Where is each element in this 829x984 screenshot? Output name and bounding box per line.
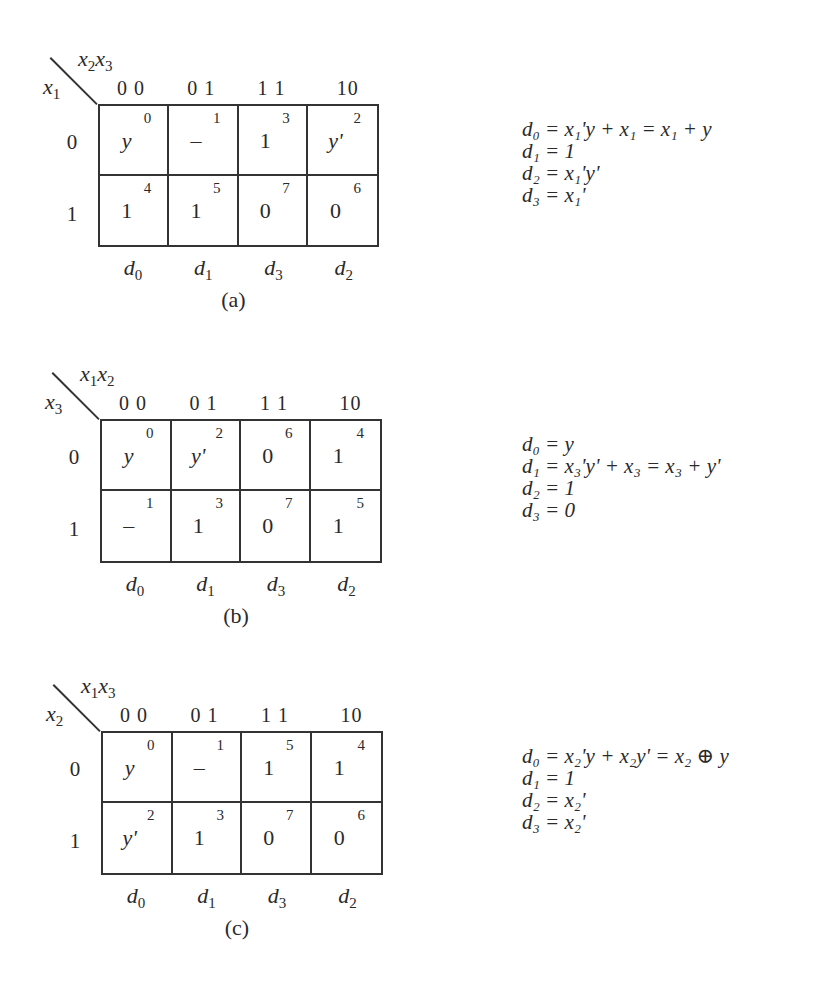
equation-line: d₂ = 1 (522, 477, 720, 499)
kmap-cell: 31 (239, 106, 308, 176)
cell-value: y' (103, 825, 157, 851)
d-subscript: 2 (349, 895, 357, 911)
col-var-2: x (98, 673, 108, 698)
row-header: 1 (65, 829, 85, 854)
d-symbol: d (268, 883, 279, 908)
kmap-cell: 31 (173, 803, 243, 873)
d-subscript: 3 (275, 267, 283, 283)
kmap-cell: 0y (100, 106, 169, 176)
column-variables-label: x1x2 (80, 361, 115, 390)
data-input-label: d2 (313, 883, 383, 912)
row-var-sub: 1 (53, 86, 61, 102)
data-input-label: d1 (172, 883, 242, 912)
panel-caption: (a) (204, 287, 264, 313)
d-subscript: 3 (279, 895, 287, 911)
cell-value: 0 (241, 443, 295, 469)
equation-line: d₁ = 1 (522, 767, 729, 789)
cell-value: 1 (100, 198, 153, 224)
minterm-index: 1 (146, 495, 154, 512)
col-var-1: x (80, 361, 90, 386)
equation-line: d₀ = x₂'y + x₂y' = x₂ ⊕ y (522, 745, 729, 767)
minterm-index: 1 (217, 737, 225, 754)
cell-value: – (169, 128, 222, 154)
equation-line: d₃ = 0 (522, 499, 720, 521)
kmap-cell: 41 (311, 421, 381, 491)
column-header: 10 (313, 77, 383, 100)
cell-value: y (100, 128, 153, 154)
col-var-1: x (81, 673, 91, 698)
d-subscript: 1 (207, 583, 215, 599)
row-var: x (45, 389, 55, 414)
row-var-sub: 2 (56, 713, 64, 729)
cell-value: 1 (172, 513, 226, 539)
equation-line: d₁ = x₃'y' + x₃ = x₃ + y' (522, 455, 720, 477)
d-symbol: d (267, 571, 278, 596)
kmap-cell: 1– (169, 106, 238, 176)
equation-line: d₂ = x₁'y' (522, 162, 711, 184)
kmap-cell: 70 (239, 176, 308, 246)
column-header: 0 0 (98, 392, 168, 415)
column-header: 0 1 (169, 392, 239, 415)
minterm-index: 0 (144, 110, 152, 127)
d-subscript: 0 (137, 583, 145, 599)
kmap-cell: 41 (312, 733, 382, 803)
d-symbol: d (335, 255, 346, 280)
minterm-index: 0 (147, 737, 155, 754)
d-subscript: 1 (208, 895, 216, 911)
data-input-label: d2 (309, 255, 379, 284)
column-header: 1 1 (239, 392, 309, 415)
minterm-index: 4 (358, 737, 366, 754)
kmap-cell: 1– (102, 491, 172, 561)
column-header: 1 1 (240, 704, 310, 727)
data-input-label: d3 (239, 255, 309, 284)
cell-value: 0 (308, 198, 363, 224)
minterm-index: 3 (282, 110, 290, 127)
equation-line: d₀ = x₁'y + x₁ = x₁ + y (522, 118, 711, 140)
d-subscript: 1 (205, 267, 213, 283)
kmap-cell: 60 (312, 803, 382, 873)
d-symbol: d (264, 255, 275, 280)
data-input-label: d3 (242, 883, 312, 912)
kmap-cell: 1– (173, 733, 243, 803)
kmap-cell: 0y (103, 733, 173, 803)
minterm-index: 4 (357, 425, 365, 442)
row-header: 0 (64, 445, 84, 470)
row-var: x (43, 74, 53, 99)
data-input-label: d2 (312, 571, 382, 600)
column-header: 1 1 (237, 77, 307, 100)
equation-block: d₀ = x₂'y + x₂y' = x₂ ⊕ yd₁ = 1d₂ = x₂'d… (522, 745, 729, 833)
minterm-index: 3 (216, 495, 224, 512)
minterm-index: 7 (286, 807, 294, 824)
column-header: 0 0 (96, 77, 166, 100)
col-var-2: x (97, 361, 107, 386)
row-variable-label: x2 (46, 701, 63, 730)
column-header: 10 (317, 704, 387, 727)
d-subscript: 2 (348, 583, 356, 599)
row-var: x (46, 701, 56, 726)
row-header: 1 (64, 517, 84, 542)
minterm-index: 1 (213, 110, 221, 127)
d-subscript: 3 (278, 583, 286, 599)
panel-caption: (c) (207, 915, 267, 941)
data-input-label: d1 (168, 255, 238, 284)
column-header: 0 1 (170, 704, 240, 727)
equation-block: d₀ = x₁'y + x₁ = x₁ + yd₁ = 1d₂ = x₁'y'd… (522, 118, 711, 206)
row-header: 0 (62, 130, 82, 155)
cell-value: 1 (242, 755, 296, 781)
cell-value: 1 (311, 443, 367, 469)
minterm-index: 6 (354, 180, 362, 197)
kmap-cell: 2y' (172, 421, 242, 491)
cell-value: 1 (311, 513, 367, 539)
cell-value: y (102, 443, 156, 469)
kmap-cell: 60 (308, 176, 377, 246)
kmap-grid: 0y1–312y'41517060 (98, 104, 379, 247)
cell-value: 1 (169, 198, 222, 224)
column-variables-label: x1x3 (81, 673, 116, 702)
minterm-index: 5 (213, 180, 221, 197)
col-var-2-sub: 3 (108, 685, 116, 701)
minterm-index: 6 (285, 425, 293, 442)
cell-value: 0 (239, 198, 292, 224)
kmap-cell: 0y (102, 421, 172, 491)
cell-value: 0 (241, 513, 295, 539)
col-var-1: x (78, 46, 88, 71)
